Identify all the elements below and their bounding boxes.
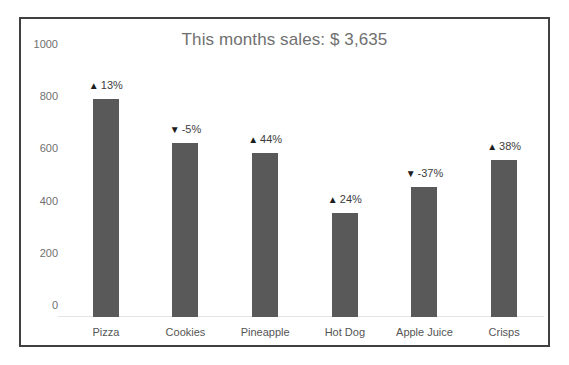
bar-change-value: 38% (499, 140, 521, 152)
bar-change-value: -37% (418, 167, 444, 179)
arrow-up-icon: ▲ (328, 194, 338, 205)
bar-change-label: ▼-5% (170, 123, 201, 135)
bar-group: ▲13%Pizza (66, 56, 146, 317)
arrow-down-icon: ▼ (406, 168, 416, 179)
bar[interactable] (411, 187, 437, 318)
bar-change-value: 44% (260, 133, 282, 145)
plot-area: 02004006008001000 ▲13%Pizza▼-5%Cookies▲4… (66, 56, 544, 317)
x-axis-category-label: Pizza (92, 326, 119, 338)
arrow-up-icon: ▲ (89, 80, 99, 91)
arrow-up-icon: ▲ (487, 141, 497, 152)
arrow-down-icon: ▼ (170, 124, 180, 135)
bar[interactable] (252, 153, 278, 317)
bar-change-label: ▼-37% (406, 167, 444, 179)
chart-frame: This months sales: $ 3,635 0200400600800… (19, 17, 550, 347)
bar-change-value: 13% (101, 79, 123, 91)
x-axis-category-label: Crisps (489, 326, 520, 338)
y-axis-tick-label: 200 (40, 247, 58, 259)
bar[interactable] (172, 143, 198, 317)
bar-change-value: 24% (340, 193, 362, 205)
bar[interactable] (332, 213, 358, 317)
y-axis-tick-label: 600 (40, 142, 58, 154)
y-axis-tick-label: 1000 (34, 38, 58, 50)
y-axis-tick-label: 800 (40, 90, 58, 102)
bar-change-value: -5% (182, 123, 202, 135)
x-axis-category-label: Apple Juice (396, 326, 453, 338)
bar[interactable] (93, 99, 119, 317)
y-axis-tick-label: 400 (40, 195, 58, 207)
x-axis-category-label: Cookies (166, 326, 206, 338)
bar-change-label: ▲24% (328, 193, 362, 205)
bar-group: ▲38%Crisps (464, 56, 544, 317)
y-axis-tick-label: 0 (52, 299, 58, 311)
bar-change-label: ▲13% (89, 79, 123, 91)
bar[interactable] (491, 160, 517, 317)
bar-group: ▲24%Hot Dog (305, 56, 385, 317)
bar-group: ▲44%Pineapple (225, 56, 305, 317)
chart-title: This months sales: $ 3,635 (21, 30, 548, 50)
arrow-up-icon: ▲ (248, 134, 258, 145)
bar-change-label: ▲44% (248, 133, 282, 145)
bar-group: ▼-37%Apple Juice (385, 56, 465, 317)
x-axis-category-label: Pineapple (241, 326, 290, 338)
bar-group: ▼-5%Cookies (146, 56, 226, 317)
bar-series: ▲13%Pizza▼-5%Cookies▲44%Pineapple▲24%Hot… (66, 56, 544, 317)
bar-change-label: ▲38% (487, 140, 521, 152)
x-axis-category-label: Hot Dog (325, 326, 365, 338)
